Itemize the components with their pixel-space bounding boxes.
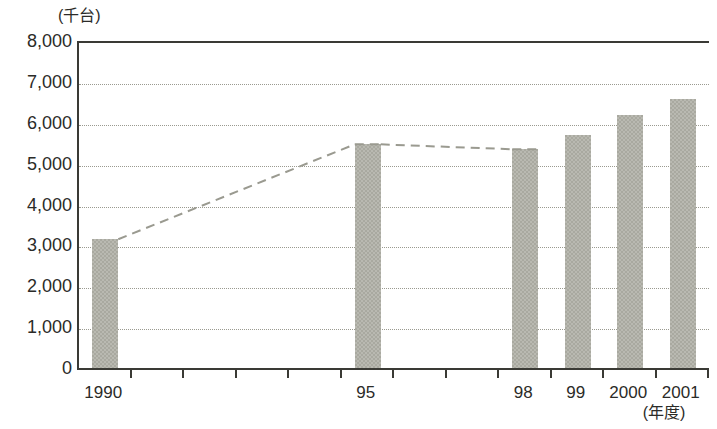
y-axis-tick-label: 5,000	[4, 155, 72, 173]
gridline	[79, 329, 709, 330]
gridline	[79, 247, 709, 248]
x-axis-tick-mark	[655, 369, 657, 378]
plot-inner	[79, 43, 709, 370]
y-axis-tick-label: 0	[4, 359, 72, 377]
plot-area	[77, 41, 709, 370]
y-axis-tick-label: 1,000	[4, 318, 72, 336]
x-axis-tick-mark	[445, 369, 447, 378]
gridline	[79, 288, 709, 289]
x-axis-tick-mark	[287, 369, 289, 378]
x-axis-tick-mark	[707, 369, 709, 378]
y-axis-tick-label: 7,000	[4, 73, 72, 91]
gridline	[79, 125, 709, 126]
x-axis-tick-mark	[130, 369, 132, 378]
bar	[670, 99, 696, 370]
x-axis-tick-label: 2001	[641, 383, 717, 402]
gridline	[79, 84, 709, 85]
x-axis-unit-label: (年度)	[643, 404, 686, 422]
y-axis-tick-label: 4,000	[4, 196, 72, 214]
x-axis-tick-mark	[602, 369, 604, 378]
y-axis-tick-labels: 8,0007,0006,0005,0004,0003,0002,0001,000…	[0, 0, 72, 429]
bar	[617, 115, 643, 370]
bar	[565, 135, 591, 370]
x-axis-tick-label: 1990	[63, 383, 143, 402]
y-axis-tick-label: 8,000	[4, 32, 72, 50]
trend-path	[118, 144, 538, 239]
x-axis-tick-mark	[497, 369, 499, 378]
gridline	[79, 207, 709, 208]
bar	[355, 144, 381, 370]
y-axis-tick-label: 3,000	[4, 236, 72, 254]
y-axis-tick-label: 2,000	[4, 277, 72, 295]
bar-chart: (千台) 8,0007,0006,0005,0004,0003,0002,000…	[0, 0, 717, 429]
gridline	[79, 166, 709, 167]
x-axis-tick-mark	[182, 369, 184, 378]
x-axis-tick-mark	[235, 369, 237, 378]
x-axis-tick-mark	[550, 369, 552, 378]
x-axis-tick-mark	[392, 369, 394, 378]
bar	[92, 239, 118, 370]
bar	[512, 149, 538, 370]
y-axis-tick-label: 6,000	[4, 114, 72, 132]
x-axis-tick-label: 95	[326, 383, 406, 402]
x-axis-tick-mark	[340, 369, 342, 378]
